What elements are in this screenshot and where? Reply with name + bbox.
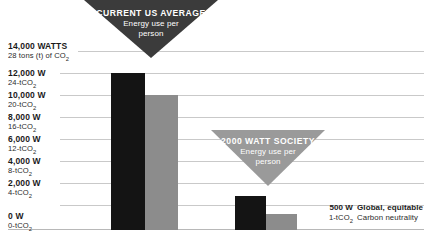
axis-tick-12000-co2: 24-tCO2 bbox=[8, 78, 46, 91]
annotation-500w-co2: 1-tCO2 bbox=[305, 213, 353, 226]
bar-us-co2 bbox=[145, 95, 178, 230]
bar-2000w-co2 bbox=[266, 214, 297, 230]
gridline-0 bbox=[8, 229, 424, 230]
axis-tick-14000: 14,000 WATTS 28 tons (t) of CO2 bbox=[8, 41, 69, 64]
axis-tick-14000-co2: 28 tons (t) of CO2 bbox=[8, 51, 69, 64]
annotation-500w-desc2: Carbon neutrality bbox=[357, 213, 423, 222]
axis-tick-4000: 4,000 W 8-tCO2 bbox=[8, 156, 41, 179]
triangle-down-icon bbox=[84, 0, 218, 58]
axis-tick-4000-watts: 4,000 W bbox=[8, 156, 41, 166]
axis-tick-8000-watts: 8,000 W bbox=[8, 112, 41, 122]
axis-tick-2000-watts: 2,000 W bbox=[8, 178, 41, 188]
annotation-500w-value: 500 W 1-tCO2 bbox=[305, 203, 353, 226]
bar-2000w-watts bbox=[235, 196, 266, 230]
axis-tick-10000: 10,000 W 20-tCO2 bbox=[8, 90, 46, 113]
axis-tick-0-co2: 0-tCO2 bbox=[8, 221, 32, 234]
axis-tick-6000-co2: 12-tCO2 bbox=[8, 144, 41, 157]
callout-2000-watt-society: 2000 WATT SOCIETY Energy use per person bbox=[211, 130, 325, 186]
axis-tick-8000: 8,000 W 16-tCO2 bbox=[8, 112, 41, 135]
axis-tick-10000-co2: 20-tCO2 bbox=[8, 100, 46, 113]
bar-us-watts bbox=[111, 73, 145, 230]
axis-tick-2000: 2,000 W 4-tCO2 bbox=[8, 178, 41, 201]
annotation-500w-desc1: Global, equitable bbox=[357, 203, 423, 212]
axis-tick-10000-watts: 10,000 W bbox=[8, 90, 46, 100]
axis-tick-12000: 12,000 W 24-tCO2 bbox=[8, 68, 46, 91]
axis-tick-0: 0 W 0-tCO2 bbox=[8, 211, 32, 234]
axis-tick-6000: 6,000 W 12-tCO2 bbox=[8, 134, 41, 157]
chart-canvas: 14,000 WATTS 28 tons (t) of CO2 12,000 W… bbox=[0, 0, 424, 251]
axis-tick-0-watts: 0 W bbox=[8, 211, 32, 221]
axis-tick-6000-watts: 6,000 W bbox=[8, 134, 41, 144]
axis-tick-4000-co2: 8-tCO2 bbox=[8, 166, 41, 179]
axis-tick-2000-co2: 4-tCO2 bbox=[8, 188, 41, 201]
callout-current-us-average: CURRENT US AVERAGE Energy use per person bbox=[84, 0, 218, 58]
annotation-500w-watts: 500 W bbox=[329, 203, 353, 212]
axis-tick-12000-watts: 12,000 W bbox=[8, 68, 46, 78]
axis-tick-8000-co2: 16-tCO2 bbox=[8, 122, 41, 135]
annotation-500w-description: Global, equitable Carbon neutrality bbox=[357, 203, 423, 222]
axis-tick-14000-watts: 14,000 WATTS bbox=[8, 41, 69, 51]
triangle-down-icon bbox=[211, 130, 325, 186]
